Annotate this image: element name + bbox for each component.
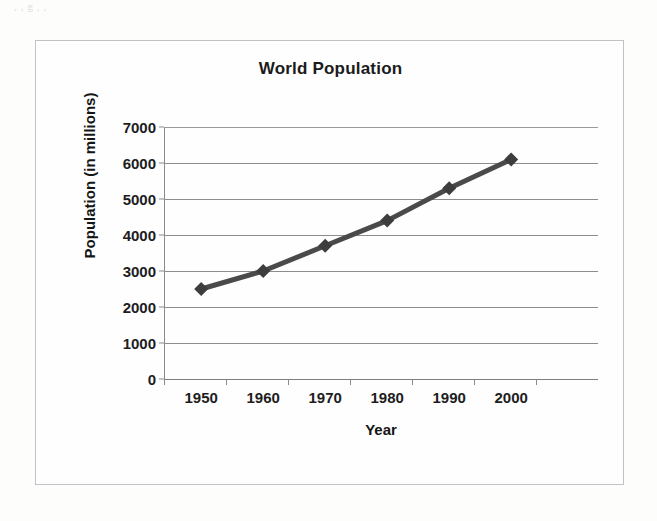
y-axis-title: Population (in millions) — [81, 61, 98, 291]
scan-artifact-bottom-text — [0, 497, 657, 517]
x-tick-label-1980: 1980 — [371, 389, 404, 406]
x-axis-title: Year — [164, 421, 598, 438]
data-point-marker-1970 — [318, 239, 332, 253]
x-tick-mark-0 — [164, 379, 165, 385]
x-tick-label-1990: 1990 — [433, 389, 466, 406]
x-tick-mark-4 — [412, 379, 413, 385]
chart-frame: World Population Population (in millions… — [35, 40, 624, 485]
x-tick-label-2000: 2000 — [495, 389, 528, 406]
chart-title: World Population — [36, 59, 625, 79]
x-tick-mark-1 — [226, 379, 227, 385]
y-tick-label-4000: 4000 — [123, 227, 156, 244]
y-tick-label-2000: 2000 — [123, 299, 156, 316]
x-tick-label-1950: 1950 — [185, 389, 218, 406]
data-point-marker-1950 — [194, 282, 208, 296]
x-tick-mark-3 — [350, 379, 351, 385]
series-line — [201, 159, 511, 289]
x-tick-mark-5 — [474, 379, 475, 385]
plot-area: 01000200030004000500060007000 1950196019… — [164, 127, 598, 379]
x-tick-label-1960: 1960 — [247, 389, 280, 406]
y-tick-label-1000: 1000 — [123, 335, 156, 352]
gridline-0 — [164, 379, 598, 380]
x-tick-mark-2 — [288, 379, 289, 385]
data-point-marker-1960 — [256, 264, 270, 278]
y-tick-label-5000: 5000 — [123, 191, 156, 208]
x-tick-mark-6 — [536, 379, 537, 385]
x-tick-label-1970: 1970 — [309, 389, 342, 406]
y-tick-label-7000: 7000 — [123, 119, 156, 136]
data-series-line — [164, 127, 598, 379]
y-tick-label-6000: 6000 — [123, 155, 156, 172]
scan-artifact-top-text: , , g , , — [0, 0, 657, 26]
y-tick-label-3000: 3000 — [123, 263, 156, 280]
y-tick-label-0: 0 — [148, 371, 156, 388]
